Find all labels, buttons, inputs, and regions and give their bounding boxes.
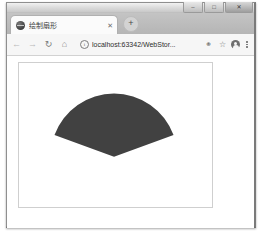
window-titlebar[interactable]: – □ ✕ — [7, 3, 254, 13]
tab-close-icon[interactable]: ✕ — [105, 22, 113, 29]
sector-drawing — [19, 63, 212, 207]
sector-shape — [54, 94, 173, 157]
extensions-icon[interactable]: ⚭ — [203, 39, 214, 50]
menu-dot — [246, 41, 248, 43]
reload-icon[interactable]: ↻ — [42, 38, 55, 51]
close-icon: ✕ — [236, 4, 241, 10]
maximize-icon: □ — [212, 4, 216, 10]
browser-window: – □ ✕ 绘制扇形 ✕ + ← → ↻ ⌂ i localhost:63342… — [6, 2, 256, 228]
window-controls: – □ ✕ — [183, 2, 253, 13]
minimize-icon: – — [191, 4, 194, 10]
three-dot-menu-icon[interactable] — [243, 41, 251, 48]
tab-title: 绘制扇形 — [29, 20, 105, 30]
home-icon[interactable]: ⌂ — [58, 38, 71, 51]
page-viewport — [7, 56, 254, 228]
minimize-button[interactable]: – — [183, 2, 203, 13]
address-bar[interactable]: i localhost:63342/WebStor... — [76, 38, 198, 51]
back-icon[interactable]: ← — [10, 38, 23, 51]
bookmark-star-icon[interactable]: ☆ — [217, 39, 228, 50]
maximize-button[interactable]: □ — [204, 2, 224, 13]
tab-active[interactable]: 绘制扇形 ✕ — [10, 15, 118, 34]
globe-icon — [16, 21, 25, 30]
site-info-icon[interactable]: i — [80, 40, 89, 49]
forward-icon[interactable]: → — [26, 38, 39, 51]
close-button[interactable]: ✕ — [225, 2, 253, 13]
browser-toolbar: ← → ↻ ⌂ i localhost:63342/WebStor... ⚭ ☆ — [7, 34, 254, 56]
menu-dot — [246, 44, 248, 46]
tab-strip: 绘制扇形 ✕ + — [7, 13, 254, 34]
url-text: localhost:63342/WebStor... — [92, 41, 194, 48]
menu-dot — [246, 46, 248, 48]
new-tab-button[interactable]: + — [123, 16, 139, 32]
canvas-element — [18, 62, 213, 208]
profile-avatar-icon[interactable] — [231, 40, 240, 49]
